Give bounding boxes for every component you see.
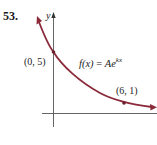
point-6-1 (122, 101, 126, 105)
curve-arrow-right-icon (150, 104, 157, 111)
y-axis-arrow-icon (51, 12, 55, 18)
point-label-0-5: (0, 5) (24, 56, 46, 67)
function-exponent: kx (116, 56, 122, 64)
point-0-5 (52, 50, 56, 54)
function-base: Ae (105, 58, 116, 69)
equals-sign: = (94, 58, 105, 69)
function-label: f(x) = Aekx (79, 56, 122, 69)
function-name: f(x) (79, 58, 94, 69)
point-label-6-1: (6, 1) (116, 85, 138, 96)
y-axis-label: y (46, 10, 50, 21)
graph (0, 0, 157, 145)
